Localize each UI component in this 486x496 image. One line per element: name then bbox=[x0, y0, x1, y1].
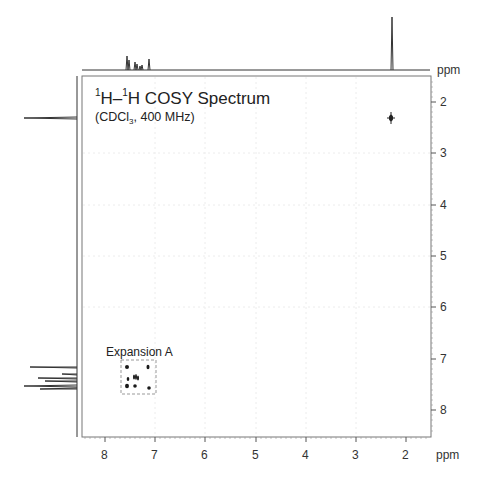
subtitle-solvent: (CDCl bbox=[95, 110, 129, 124]
title-superscript-1: 1 bbox=[95, 87, 101, 98]
x-tick-label: 5 bbox=[252, 448, 259, 462]
x-tick-label: 6 bbox=[201, 448, 208, 462]
x-tick-label: 3 bbox=[352, 448, 359, 462]
y-tick-label: 7 bbox=[440, 352, 447, 366]
x-tick-label: 2 bbox=[402, 448, 409, 462]
y-tick-label: 3 bbox=[440, 146, 447, 160]
cross-peak-2-3-ppm bbox=[387, 112, 395, 124]
x-tick-label: 7 bbox=[151, 448, 158, 462]
aromatic-cross-peaks bbox=[125, 365, 151, 390]
title-main-text: H COSY Spectrum bbox=[128, 89, 270, 108]
chart-title: 1H–1H COSY Spectrum bbox=[95, 89, 270, 109]
subtitle-subscript: 3 bbox=[129, 117, 133, 126]
y-tick-label: 6 bbox=[440, 300, 447, 314]
x-axis-unit-label: ppm bbox=[436, 448, 459, 462]
expansion-a-label: Expansion A bbox=[106, 345, 173, 359]
x-tick-label: 8 bbox=[101, 448, 108, 462]
y-tick-label: 2 bbox=[440, 95, 447, 109]
title-h-dash: H– bbox=[101, 89, 123, 108]
subtitle-frequency: , 400 MHz) bbox=[133, 110, 194, 124]
cosy-spectrum-plot bbox=[0, 0, 486, 496]
left-projection-spectrum bbox=[24, 76, 77, 437]
y-tick-label: 8 bbox=[440, 403, 447, 417]
title-superscript-2: 1 bbox=[122, 87, 128, 98]
x-tick-label: 4 bbox=[302, 448, 309, 462]
chart-subtitle: (CDCl3, 400 MHz) bbox=[95, 110, 195, 124]
grid-lines bbox=[83, 77, 430, 436]
y-axis-unit-label: ppm bbox=[437, 63, 460, 77]
top-projection-spectrum bbox=[82, 17, 430, 70]
y-tick-label: 5 bbox=[440, 249, 447, 263]
y-tick-label: 4 bbox=[440, 198, 447, 212]
